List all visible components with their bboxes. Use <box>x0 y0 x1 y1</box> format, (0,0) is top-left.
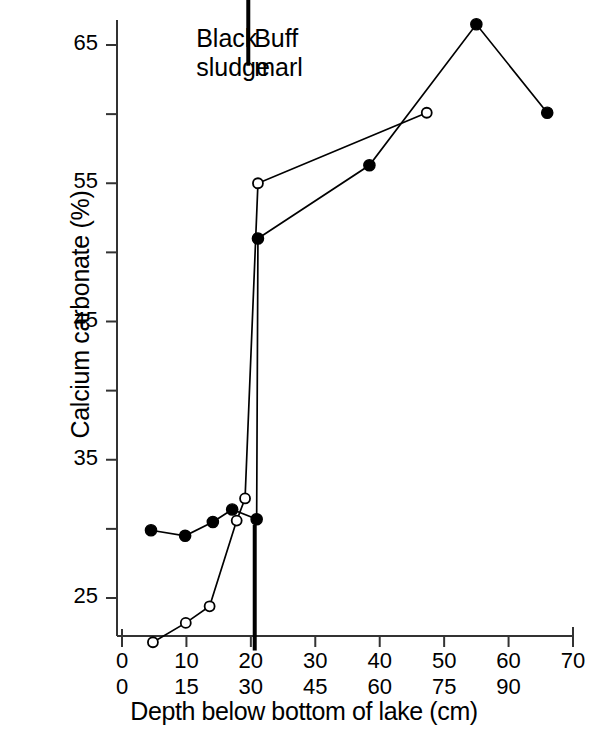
data-point-open <box>205 601 215 611</box>
y-tick-label: 65 <box>38 30 98 56</box>
y-tick-label: 55 <box>38 168 98 194</box>
y-tick-label: 35 <box>38 445 98 471</box>
x-tick-label-primary: 20 <box>229 648 273 674</box>
open-circle-series-line <box>153 113 427 642</box>
data-point-filled <box>542 107 553 118</box>
data-point-filled <box>471 19 482 30</box>
axis-layer <box>106 20 573 647</box>
y-tick-label: 45 <box>38 307 98 333</box>
figure-root: Calcium carbonate (%) Depth below bottom… <box>0 0 608 744</box>
x-axis-title: Depth below bottom of lake (cm) <box>0 697 608 726</box>
x-tick-label-secondary: 60 <box>358 674 402 700</box>
x-tick-label-primary: 30 <box>293 648 337 674</box>
data-point-open <box>253 178 263 188</box>
x-tick-label-primary: 10 <box>164 648 208 674</box>
data-point-open <box>181 618 191 628</box>
x-tick-label-primary: 50 <box>422 648 466 674</box>
x-tick-label-primary: 40 <box>358 648 402 674</box>
x-tick-label-secondary: 75 <box>422 674 466 700</box>
data-point-filled <box>252 233 263 244</box>
data-point-filled <box>364 160 375 171</box>
series-layer <box>145 19 552 648</box>
zone-label-buff-marl: Buff marl <box>254 24 303 81</box>
filled-circle-series-line <box>151 24 547 536</box>
x-tick-label-primary: 70 <box>551 648 595 674</box>
x-tick-label-secondary: 0 <box>100 674 144 700</box>
data-point-filled <box>145 525 156 536</box>
data-point-filled <box>180 530 191 541</box>
x-tick-label-secondary: 30 <box>229 674 273 700</box>
y-tick-label: 25 <box>38 583 98 609</box>
data-point-open <box>240 493 250 503</box>
data-point-open <box>422 108 432 118</box>
data-point-filled <box>251 514 262 525</box>
x-tick-label-secondary: 90 <box>487 674 531 700</box>
x-tick-label-primary: 0 <box>100 648 144 674</box>
data-point-filled <box>227 504 238 515</box>
x-tick-label-secondary: 15 <box>164 674 208 700</box>
data-point-open <box>232 516 242 526</box>
data-point-open <box>148 637 158 647</box>
data-point-filled <box>207 516 218 527</box>
x-tick-label-secondary: 45 <box>293 674 337 700</box>
x-tick-label-primary: 60 <box>487 648 531 674</box>
